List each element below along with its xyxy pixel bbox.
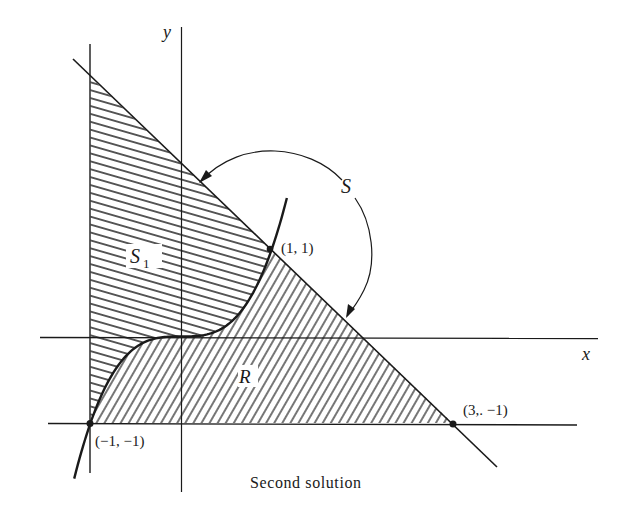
- arrowhead-icon: [346, 304, 355, 318]
- region-s-label: S: [341, 175, 351, 197]
- point-1-1: [267, 246, 274, 253]
- point-3-minus1-label: (3,. −1): [463, 402, 508, 419]
- horizontal-line-y-minus-1: [48, 424, 577, 426]
- region-r-label: R: [238, 366, 251, 387]
- point-1-1-label: (1, 1): [281, 240, 314, 257]
- figure-caption: Second solution: [250, 474, 362, 491]
- x-axis-label: x: [581, 344, 590, 364]
- point-minus1-minus1-label: (−1, −1): [95, 433, 144, 450]
- region-diagram: y x S 1 R S (1, 1) (−1, −1) (3,. −1) Sec…: [0, 0, 629, 519]
- y-axis-label: y: [161, 22, 171, 42]
- region-s1-subscript: 1: [143, 256, 150, 271]
- region-s1-label: S: [130, 245, 140, 267]
- point-minus1-minus1: [87, 420, 94, 427]
- point-3-minus1: [450, 421, 457, 428]
